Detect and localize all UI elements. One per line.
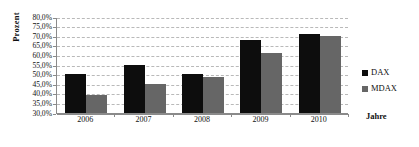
x-axis-tick-label: 2010 [299,116,339,124]
y-axis-tick-label: 60,0% [8,52,52,60]
legend-label: DAX [371,68,389,77]
x-axis-tick-label: 2007 [124,116,164,124]
legend-item-mdax[interactable]: MDAX [362,82,397,95]
bar-mdax-2007 [145,84,166,113]
legend-swatch-icon [362,86,368,92]
y-axis-tick-label: 55,0% [8,62,52,70]
y-axis-tick-mark [53,114,56,115]
x-axis-tick-label: 2006 [65,116,105,124]
legend-swatch-icon [362,70,368,76]
bar-group [232,18,290,113]
bar-dax-2008 [182,74,203,112]
bar-dax-2007 [124,65,145,112]
x-axis-tick-mark [114,114,115,117]
x-axis-tick-mark [231,114,232,117]
legend-item-dax[interactable]: DAX [362,66,397,79]
bar-group [291,18,349,113]
bar-group [115,18,173,113]
bar-group [57,18,115,113]
x-axis-tick-label: 2009 [240,116,280,124]
x-axis-tick-mark [290,114,291,117]
bar-chart: Prozent 80,0%75,0%70,0%65,0%60,0%55,0%50… [0,0,419,147]
y-axis-tick-label: 40,0% [8,90,52,98]
bar-group [174,18,232,113]
bar-mdax-2010 [320,36,341,113]
y-axis-tick-label: 65,0% [8,42,52,50]
bar-mdax-2008 [203,77,224,113]
y-axis-tick-label: 70,0% [8,33,52,41]
bar-mdax-2006 [86,95,107,112]
bar-dax-2006 [65,74,86,112]
bar-mdax-2009 [261,53,282,113]
legend-label: MDAX [371,84,397,93]
x-axis-tick-mark [348,114,349,117]
x-axis-tick-mark [173,114,174,117]
plot-area [56,18,348,114]
y-axis-tick-label: 45,0% [8,81,52,89]
y-axis-tick-label: 35,0% [8,100,52,108]
y-axis-tick-label: 75,0% [8,23,52,31]
x-axis-title: Jahre [366,111,387,121]
x-axis-tick-label: 2008 [182,116,222,124]
chart-legend: DAXMDAX [362,66,397,98]
y-axis-tick-label: 50,0% [8,71,52,79]
y-axis-tick-label: 80,0% [8,14,52,22]
bar-dax-2010 [299,34,320,113]
y-axis-tick-label: 30,0% [8,110,52,118]
bar-dax-2009 [240,40,261,113]
